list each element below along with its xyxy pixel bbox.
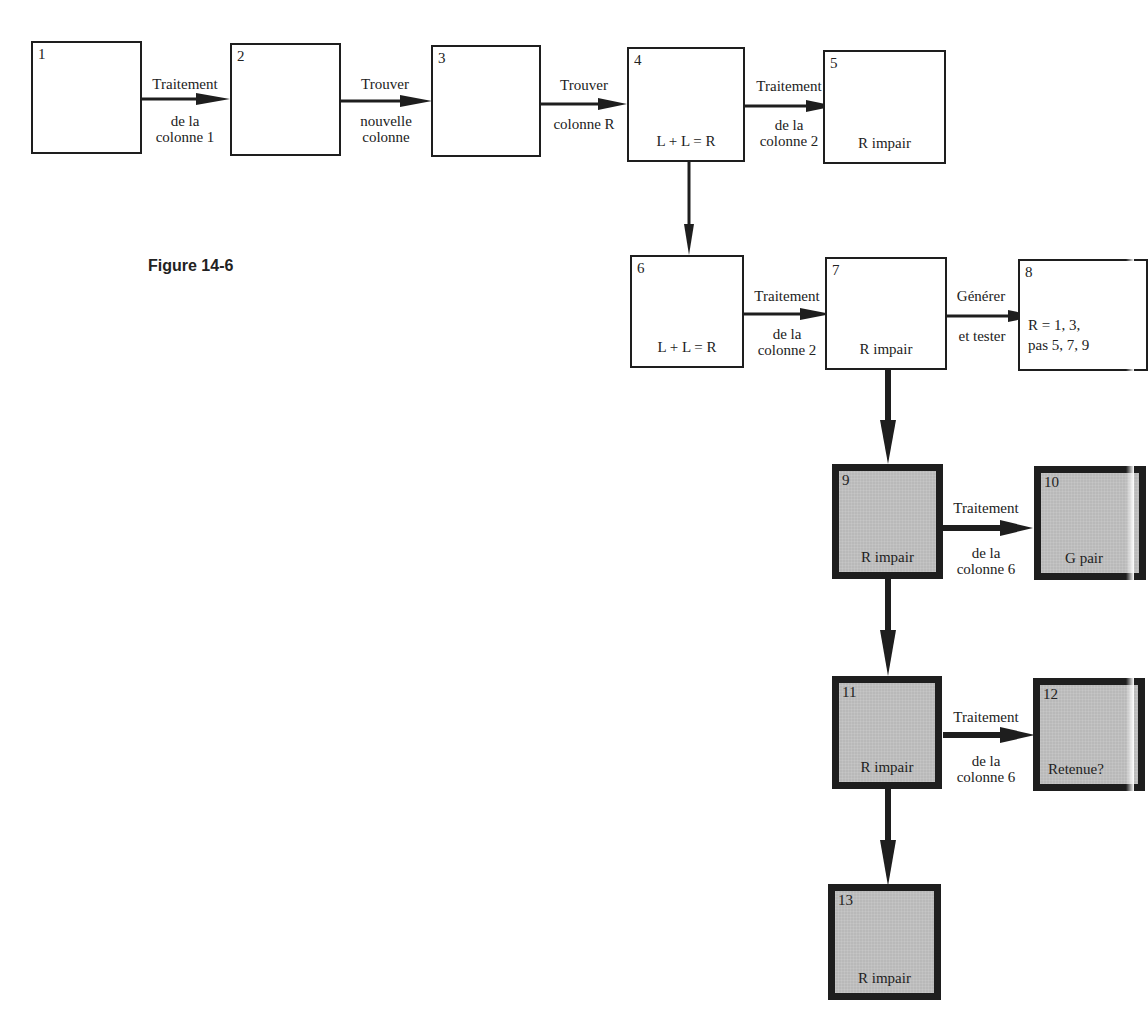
edge-label-4-5-above: Traitement — [756, 78, 821, 94]
edge-label-11-12-below: de lacolonne 6 — [957, 753, 1016, 785]
arrow-2-to-3 — [341, 95, 432, 107]
arrow-1-to-2 — [141, 93, 230, 105]
node-number: 2 — [237, 49, 245, 64]
edge-label-6-7-above: Traitement — [754, 288, 819, 304]
node-number: 13 — [838, 893, 853, 908]
node-box-13: 13 R impair — [828, 884, 941, 1000]
node-box-4: 4 L + L = R — [627, 47, 745, 162]
arrow-4-to-5 — [744, 100, 835, 112]
node-number: 3 — [438, 51, 446, 66]
node-box-5: 5 R impair — [823, 50, 946, 164]
node-number: 11 — [842, 685, 856, 700]
arrow-7-to-9 — [880, 370, 896, 464]
node-number: 6 — [637, 261, 645, 276]
node-condition: R impair — [835, 970, 934, 987]
condition-line-1: R = 1, 3, — [1028, 317, 1080, 333]
node-box-6: 6 L + L = R — [630, 255, 744, 368]
node-condition: R impair — [825, 135, 944, 152]
edge-label-3-4-above: Trouver — [560, 77, 608, 93]
arrow-3-to-4 — [541, 98, 627, 110]
edge-label-7-8-below: et tester — [958, 328, 1005, 344]
edge-label-9-10-above: Traitement — [953, 500, 1018, 516]
condition-line-2: pas 5, 7, 9 — [1028, 337, 1089, 353]
node-number: 7 — [832, 263, 840, 278]
node-number: 10 — [1044, 475, 1059, 490]
arrow-9-to-10 — [943, 520, 1033, 536]
node-number: 12 — [1043, 687, 1058, 702]
node-condition: G pair — [1041, 550, 1127, 567]
node-box-7: 7 R impair — [825, 257, 947, 370]
edge-label-7-8-above: Générer — [957, 288, 1005, 304]
edge-label-11-12-above: Traitement — [953, 709, 1018, 725]
node-number: 9 — [842, 473, 850, 488]
arrow-4-to-6 — [684, 160, 694, 255]
node-condition: Retenue? — [1048, 761, 1138, 778]
edge-label-6-7-below: de lacolonne 2 — [758, 326, 817, 358]
node-number: 8 — [1025, 265, 1033, 280]
figure-caption: Figure 14-6 — [148, 257, 233, 275]
node-condition: R impair — [839, 759, 935, 776]
node-condition: R impair — [827, 341, 945, 358]
node-condition: R impair — [839, 549, 936, 566]
node-box-1: 1 — [31, 41, 142, 154]
arrow-11-to-13 — [880, 788, 896, 886]
arrow-6-to-7 — [744, 308, 831, 320]
arrow-9-to-11 — [880, 578, 896, 676]
edge-label-1-2-above: Traitement — [152, 76, 217, 92]
edge-label-2-3-above: Trouver — [361, 76, 409, 92]
node-box-2: 2 — [230, 43, 341, 156]
edge-label-3-4-below: colonne R — [553, 116, 614, 132]
node-box-11: 11 R impair — [832, 676, 942, 789]
node-box-3: 3 — [431, 45, 541, 157]
node-condition: L + L = R — [632, 339, 742, 356]
node-condition: L + L = R — [629, 133, 743, 150]
node-box-9: 9 R impair — [832, 464, 943, 579]
edge-label-2-3-below: nouvellecolonne — [360, 113, 412, 145]
node-number: 4 — [634, 53, 642, 68]
edge-label-1-2-below: de lacolonne 1 — [156, 113, 215, 145]
arrow-11-to-12 — [943, 727, 1035, 743]
page-edge-fade — [1126, 0, 1134, 1024]
node-number: 1 — [38, 47, 46, 62]
node-number: 5 — [830, 56, 838, 71]
edge-label-9-10-below: de lacolonne 6 — [957, 545, 1016, 577]
edge-label-4-5-below: de lacolonne 2 — [760, 117, 819, 149]
